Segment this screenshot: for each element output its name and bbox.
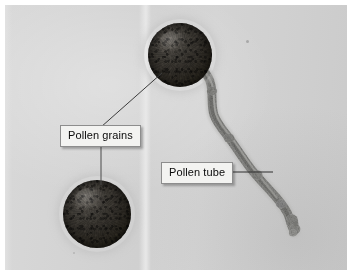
leader-line-layer xyxy=(5,5,347,270)
callout-label-pollen-tube[interactable]: Pollen tube xyxy=(161,162,233,184)
leader-line-to-upper-grain xyxy=(101,73,162,127)
callout-label-pollen-tube-text: Pollen tube xyxy=(169,166,225,178)
callout-label-pollen-grains-text: Pollen grains xyxy=(68,129,133,141)
callout-label-pollen-grains[interactable]: Pollen grains xyxy=(60,125,141,147)
micrograph-plate: Pollen grains Pollen tube xyxy=(5,5,347,270)
micrograph-figure: Pollen grains Pollen tube xyxy=(0,0,352,275)
